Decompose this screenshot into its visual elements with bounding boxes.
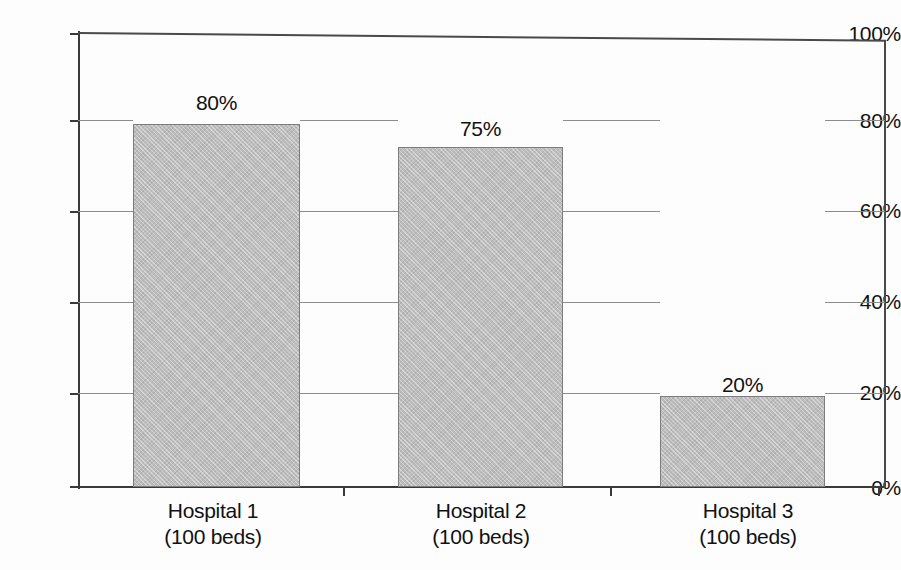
bar-value-label-hospital-3: 20%	[660, 374, 825, 395]
bar-chart: 100% 80% 60% 40% 20% 0%	[0, 0, 901, 570]
gridline-40-seg2	[300, 302, 398, 303]
gridline-60-seg4	[825, 211, 885, 212]
x-axis-tick-3	[878, 487, 880, 496]
gridline-80-seg3	[563, 120, 660, 121]
x-axis-tick-2	[610, 487, 612, 496]
gridline-60-seg3	[563, 211, 660, 212]
bar-hospital-2	[398, 147, 563, 487]
gridline-80-seg4	[825, 120, 885, 121]
x-axis-category-label-hospital-1: Hospital 1 (100 beds)	[83, 498, 343, 550]
category-label-line2: (100 beds)	[83, 524, 343, 550]
gridline-80-seg2	[300, 120, 398, 121]
x-axis-category-label-hospital-3: Hospital 3 (100 beds)	[618, 498, 878, 550]
gridline-40-seg4	[825, 302, 885, 303]
category-label-line2: (100 beds)	[618, 524, 878, 550]
category-label-line1: Hospital 3	[703, 499, 793, 522]
bar-hospital-1	[133, 124, 300, 487]
x-axis-category-label-hospital-2: Hospital 2 (100 beds)	[351, 498, 611, 550]
category-label-line1: Hospital 2	[436, 499, 526, 522]
bar-value-label-hospital-1: 80%	[133, 92, 300, 113]
gridline-40-seg3	[563, 302, 660, 303]
bar-hospital-3	[660, 396, 825, 487]
category-label-line2: (100 beds)	[351, 524, 611, 550]
category-label-line1: Hospital 1	[168, 499, 258, 522]
bar-value-label-hospital-2: 75%	[398, 118, 563, 139]
gridline-60-seg1	[78, 211, 133, 212]
gridline-80-seg1	[78, 120, 133, 121]
gridline-20-seg3	[563, 393, 660, 394]
gridline-20-seg2	[300, 393, 398, 394]
gridline-60-seg2	[300, 211, 398, 212]
gridline-20-seg4	[825, 393, 885, 394]
gridline-20-seg1	[78, 393, 133, 394]
x-axis-tick-1	[343, 487, 345, 496]
gridline-40-seg1	[78, 302, 133, 303]
